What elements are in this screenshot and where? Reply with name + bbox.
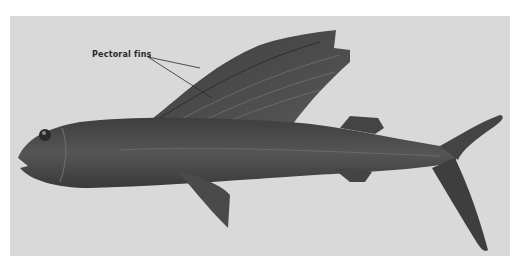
flying-fish-illustration (0, 0, 527, 269)
annotation-pointers (148, 57, 212, 98)
fish-body (18, 118, 457, 188)
tail-fin (432, 115, 503, 251)
fish-eye (39, 129, 51, 141)
pectoral-fins-label: Pectoral fins (92, 50, 152, 59)
